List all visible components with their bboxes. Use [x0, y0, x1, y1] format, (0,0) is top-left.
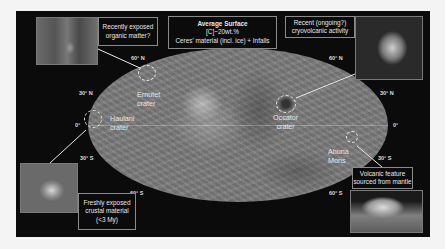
occator-crater-marker: [276, 95, 296, 113]
haulani-crater-label: Haulanicrater: [110, 115, 134, 132]
haulani-crater-marker: [84, 110, 102, 128]
material-description: Ceres' material (incl. ice) + Infalls: [169, 37, 276, 45]
occator-crater-label: Occatorcrater: [273, 114, 298, 131]
average-surface-box: Average Surface [C]~20wt.% Ceres' materi…: [168, 16, 277, 49]
callout-volcanic-feature: Volcanic feature sourced from mantle: [352, 167, 413, 189]
volcanic-feature-inset-image: [350, 190, 423, 233]
callout-organic-matter: Recently exposed organic matter?: [98, 17, 158, 46]
carbon-content: [C]~20wt.%: [169, 28, 276, 36]
lat-label-right-30n: 30° N: [380, 90, 394, 96]
lat-label-right-30s: 30° S: [378, 155, 392, 161]
ernutet-crater-marker: [138, 65, 156, 81]
average-surface-title: Average Surface: [197, 20, 247, 27]
callout-cryovolcanic-activity: Recent (ongoing?) cryovolcanic activity: [285, 16, 355, 38]
lat-label-right-60s: 60° S: [329, 190, 343, 196]
lat-label-left-30s: 30° S: [80, 155, 94, 161]
lat-label-right-0: 0°: [393, 122, 398, 128]
cryovolcanic-inset-image: [355, 16, 423, 80]
ahuna-mons-marker: [346, 131, 358, 143]
organic-matter-inset-image: [36, 17, 98, 65]
lat-label-left-0: 0°: [75, 122, 80, 128]
crustal-material-inset-image: [20, 163, 78, 213]
lat-label-right-60n: 60° N: [329, 55, 343, 61]
lat-label-left-30n: 30° N: [79, 90, 93, 96]
ernutet-crater-label: Ernutetcrater: [137, 91, 160, 108]
ahuna-mons-label: AhunaMons: [328, 148, 349, 165]
callout-crustal-material: Freshly exposed crustal material (<3 My): [78, 193, 136, 230]
lat-label-left-60n: 60° N: [131, 55, 145, 61]
